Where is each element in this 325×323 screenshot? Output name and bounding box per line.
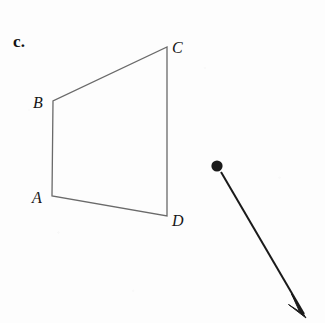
geometry-figure: [0, 0, 325, 323]
figure-canvas: c. B C A D: [0, 0, 325, 323]
vertex-label-c: C: [172, 40, 183, 56]
quadrilateral-abcd: [52, 47, 167, 216]
vector-origin-dot: [211, 160, 222, 171]
vertex-label-d: D: [172, 213, 184, 229]
vertex-label-b: B: [33, 95, 43, 111]
vector-arrowhead: [289, 294, 307, 318]
vector-shaft-line: [221, 172, 304, 314]
vertex-label-a: A: [32, 190, 42, 206]
